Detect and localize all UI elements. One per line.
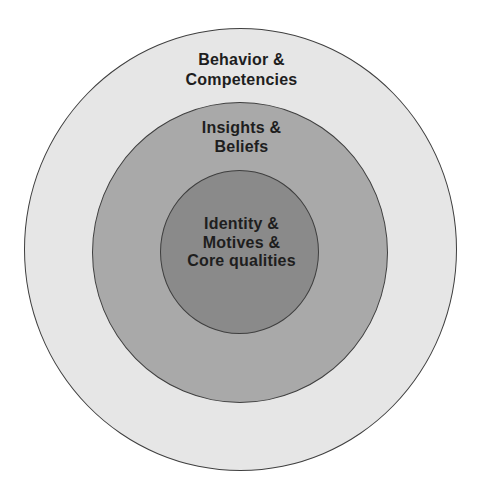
inner-label-line-1: Identity & — [0, 215, 483, 234]
inner-layer-label: Identity & Motives & Core qualities — [0, 215, 483, 271]
middle-label-line-1: Insights & — [0, 119, 483, 138]
inner-label-line-2: Motives & — [0, 234, 483, 253]
middle-layer-label: Insights & Beliefs — [0, 119, 483, 156]
inner-label-line-3: Core qualities — [0, 252, 483, 271]
middle-label-line-2: Beliefs — [0, 138, 483, 157]
outer-layer-label: Behavior & Competencies — [0, 50, 483, 90]
outer-label-line-1: Behavior & — [0, 50, 483, 70]
outer-label-line-2: Competencies — [0, 70, 483, 90]
